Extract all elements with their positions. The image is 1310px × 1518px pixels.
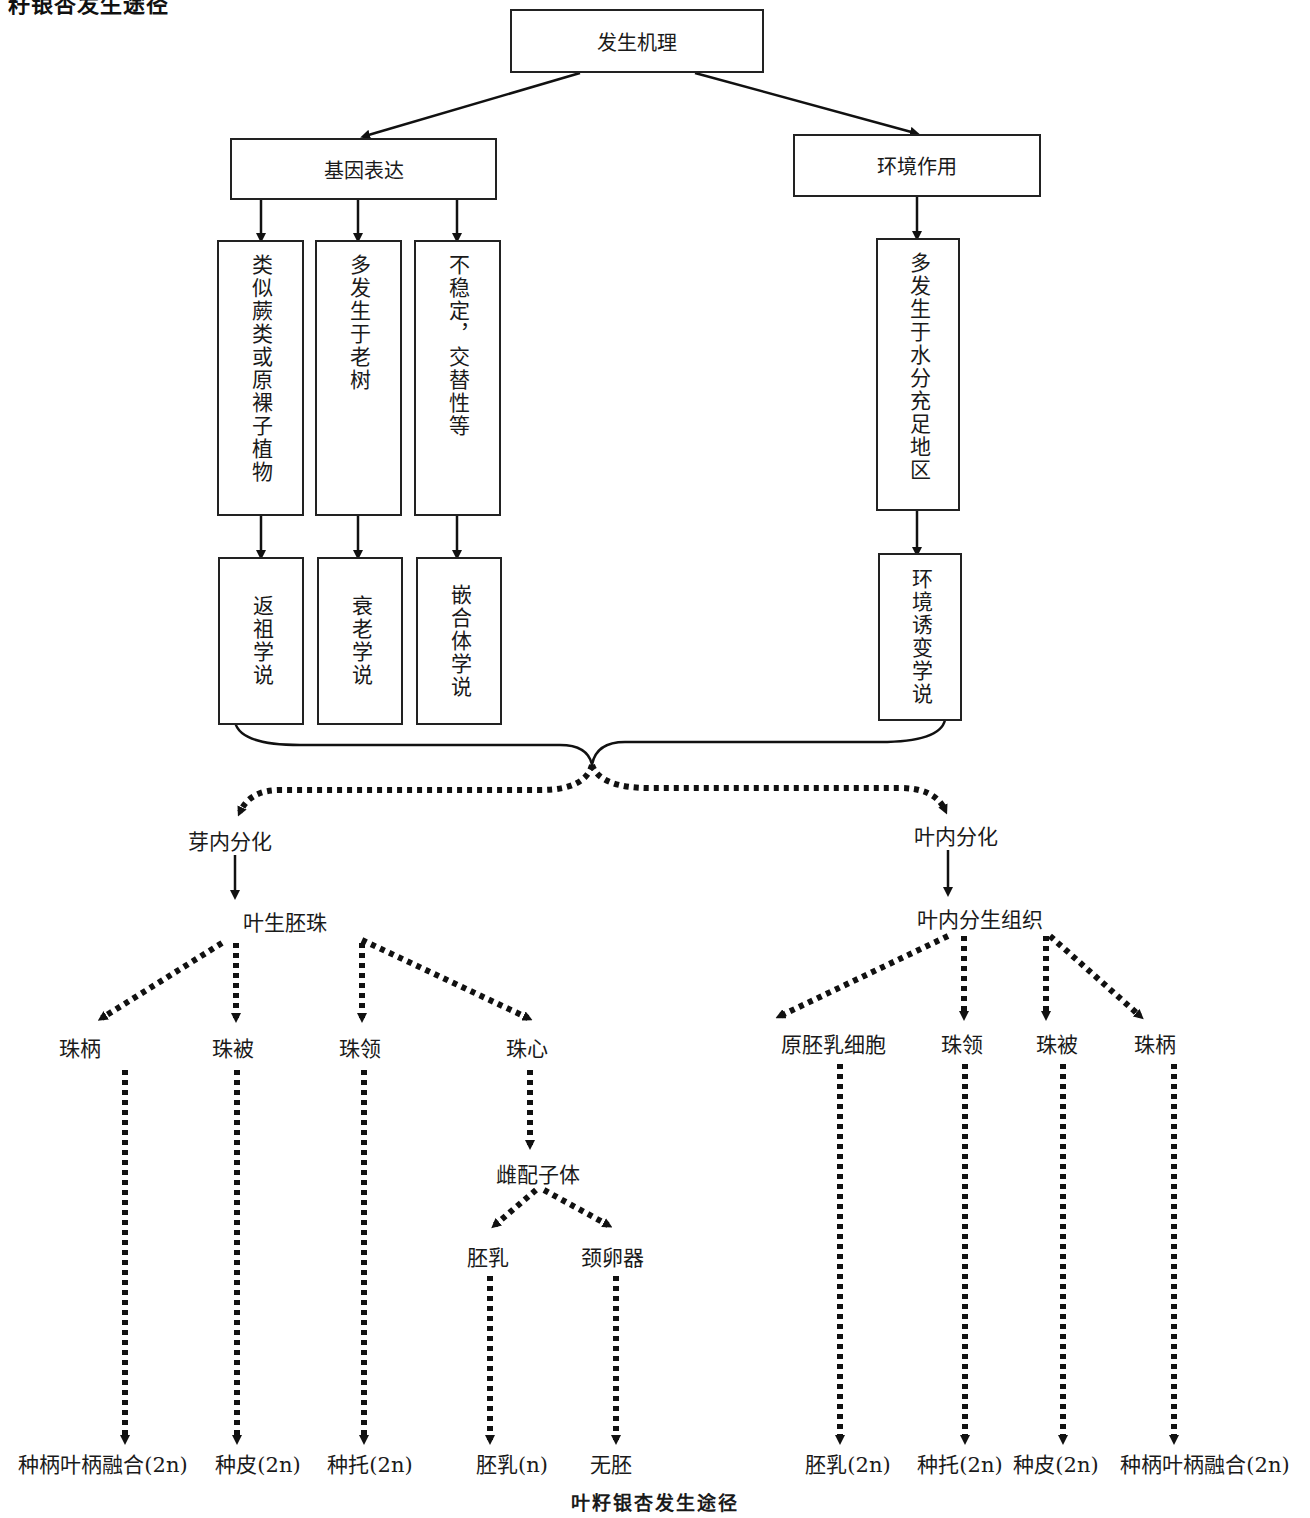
figure-caption: 叶籽银杏发生途径 bbox=[571, 1488, 739, 1515]
connector-layer bbox=[0, 0, 1310, 1518]
bud-differentiation-label: 芽内分化 bbox=[188, 825, 272, 855]
trait-node-3: 不稳定，交替性等 bbox=[414, 240, 501, 516]
bud-part-nucellus: 珠心 bbox=[506, 1032, 548, 1062]
leaf-outcome-1: 胚乳(2n) bbox=[805, 1448, 890, 1478]
leaf-meristem-label: 叶内分生组织 bbox=[917, 903, 1043, 933]
root-label: 发生机理 bbox=[597, 27, 677, 56]
bud-part-integument: 珠被 bbox=[212, 1032, 254, 1062]
dotted-arrows bbox=[102, 765, 1174, 1440]
theory-label-3: 嵌合体学说 bbox=[449, 584, 470, 699]
bud-part-funicle: 珠柄 bbox=[59, 1032, 101, 1062]
leaf-part-collar: 珠领 bbox=[941, 1028, 983, 1058]
leaf-part-endosperm-cell: 原胚乳细胞 bbox=[781, 1028, 886, 1058]
theory-node-1: 返祖学说 bbox=[218, 557, 304, 725]
theory-node-3: 嵌合体学说 bbox=[416, 557, 502, 725]
env-theory-label: 环境诱变学说 bbox=[910, 568, 931, 706]
leaf-differentiation-label: 叶内分化 bbox=[914, 820, 998, 850]
root-node: 发生机理 bbox=[510, 9, 764, 73]
female-gametophyte-label: 雌配子体 bbox=[496, 1158, 580, 1188]
leaf-outcome-3: 种皮(2n) bbox=[1013, 1448, 1098, 1478]
leaf-part-integument: 珠被 bbox=[1036, 1028, 1078, 1058]
leaf-outcome-2: 种托(2n) bbox=[917, 1448, 1002, 1478]
bud-outcome-5: 无胚 bbox=[590, 1448, 632, 1478]
trait-label-3: 不稳定，交替性等 bbox=[447, 254, 468, 514]
trait-label-2: 多发生于老树 bbox=[348, 254, 369, 514]
leaf-ovule-label: 叶生胚珠 bbox=[243, 906, 327, 936]
env-trait-label: 多发生于水分充足地区 bbox=[908, 252, 929, 509]
gene-expression-label: 基因表达 bbox=[324, 155, 404, 184]
bud-part-collar: 珠领 bbox=[339, 1032, 381, 1062]
trait-node-2: 多发生于老树 bbox=[315, 240, 402, 516]
gametophyte-endosperm-label: 胚乳 bbox=[467, 1241, 509, 1271]
bud-outcome-4: 胚乳(n) bbox=[476, 1448, 548, 1478]
bud-outcome-1: 种柄叶柄融合(2n) bbox=[18, 1448, 187, 1478]
theory-label-1: 返祖学说 bbox=[251, 595, 272, 687]
theory-label-2: 衰老学说 bbox=[350, 595, 371, 687]
archegonium-label: 颈卵器 bbox=[581, 1241, 644, 1271]
trait-label-1: 类似蕨类或原裸子植物 bbox=[250, 254, 271, 514]
leaf-outcome-4: 种柄叶柄融合(2n) bbox=[1120, 1448, 1289, 1478]
env-trait-node: 多发生于水分充足地区 bbox=[876, 238, 960, 511]
theory-node-2: 衰老学说 bbox=[317, 557, 403, 725]
bud-outcome-3: 种托(2n) bbox=[327, 1448, 412, 1478]
environment-label: 环境作用 bbox=[877, 151, 957, 180]
leaf-part-funicle: 珠柄 bbox=[1134, 1028, 1176, 1058]
gene-expression-node: 基因表达 bbox=[230, 138, 497, 200]
environment-node: 环境作用 bbox=[793, 134, 1041, 197]
env-theory-node: 环境诱变学说 bbox=[878, 553, 962, 721]
bud-outcome-2: 种皮(2n) bbox=[215, 1448, 300, 1478]
trait-node-1: 类似蕨类或原裸子植物 bbox=[217, 240, 304, 516]
